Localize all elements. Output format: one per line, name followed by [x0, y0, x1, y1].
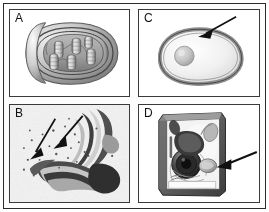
mitochondrion-illustration	[10, 10, 129, 96]
panel-b-label: B	[15, 107, 23, 120]
panel-c-label: C	[144, 12, 153, 25]
panel-a: A	[9, 9, 130, 97]
panel-d-label: D	[144, 107, 153, 120]
figure-root: A	[0, 0, 269, 212]
membrane-arrow	[139, 10, 259, 96]
golgi-arrow-right	[10, 105, 129, 202]
panel-a-label: A	[15, 12, 23, 25]
panel-d: D	[138, 104, 260, 203]
panel-b: B	[9, 104, 130, 203]
panel-c: C	[138, 9, 260, 97]
organelle-arrow	[139, 105, 259, 202]
